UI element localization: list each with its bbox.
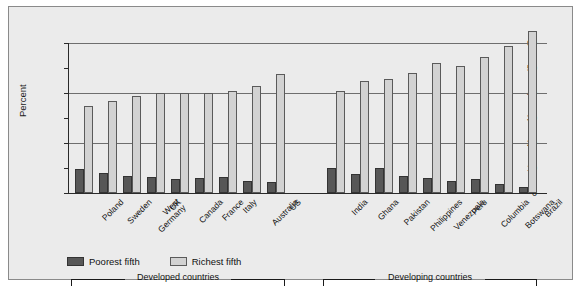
bar-group [495,43,514,193]
legend-label-poorest: Poorest fifth [89,256,140,267]
y-tick [64,68,69,69]
bar-richest-fifth [384,79,393,193]
legend-swatch-richest [170,257,187,266]
group-brace-label: Developing countries [323,272,537,282]
bar-richest-fifth [432,63,441,193]
bar-group [327,43,346,193]
bar-group [75,43,94,193]
bar-group [219,43,238,193]
bar-richest-fifth [132,96,141,194]
x-axis-line [68,193,547,194]
bar-poorest-fifth [447,181,456,194]
category-label: Canada [197,197,225,225]
bar-group [243,43,262,193]
group-brace: Developing countries [323,271,537,286]
legend-swatch-poorest [67,257,84,266]
bar-poorest-fifth [375,168,384,193]
bar-poorest-fifth [195,178,204,193]
group-brace-label: Developed countries [71,272,285,282]
chart-legend: Poorest fifth Richest fifth [67,256,241,267]
bar-poorest-fifth [423,178,432,193]
y-tick [64,118,69,119]
category-label: Pakistan [402,197,432,227]
bar-group [147,43,166,193]
bar-richest-fifth [156,93,165,193]
bar-group [351,43,370,193]
category-label: Ghana [375,197,400,222]
chart-figure: Percent 0102030405060 PolandSwedenWestGe… [8,6,573,280]
bar-poorest-fifth [267,182,276,193]
category-label: India [349,197,369,217]
legend-item-poorest: Poorest fifth [67,256,140,267]
y-tick [64,193,69,194]
bar-group [267,43,286,193]
bar-group [195,43,214,193]
bar-poorest-fifth [495,184,504,193]
bar-poorest-fifth [123,176,132,194]
bar-group [99,43,118,193]
bar-poorest-fifth [219,177,228,193]
bar-richest-fifth [252,86,261,194]
bar-richest-fifth [408,73,417,193]
bar-richest-fifth [276,74,285,193]
bar-richest-fifth [528,31,537,194]
bar-richest-fifth [504,46,513,194]
bar-poorest-fifth [399,176,408,194]
bar-poorest-fifth [243,181,252,194]
bar-group [447,43,466,193]
bar-richest-fifth [84,106,93,194]
bar-poorest-fifth [75,169,84,193]
bar-richest-fifth [204,93,213,193]
bar-poorest-fifth [171,179,180,193]
bar-group [171,43,190,193]
group-brace: Developed countries [71,271,285,286]
category-label: Poland [100,197,126,223]
bar-group [375,43,394,193]
plot-area: 0102030405060 PolandSwedenWestGermanyUKC… [69,43,547,193]
bar-richest-fifth [180,93,189,193]
bar-group [123,43,142,193]
bar-group [423,43,442,193]
bar-richest-fifth [480,57,489,193]
bar-richest-fifth [108,101,117,194]
bar-richest-fifth [228,91,237,194]
bar-richest-fifth [360,81,369,194]
legend-item-richest: Richest fifth [170,256,242,267]
bar-richest-fifth [336,91,345,194]
bar-poorest-fifth [327,168,336,193]
bar-richest-fifth [456,66,465,194]
category-label: Italy [241,197,259,215]
bar-group [471,43,490,193]
y-tick [64,168,69,169]
bar-poorest-fifth [147,177,156,193]
bar-poorest-fifth [351,174,360,193]
y-axis-title: Percent [17,84,28,117]
bar-poorest-fifth [471,179,480,193]
bar-poorest-fifth [99,173,108,193]
bar-group [519,43,538,193]
bar-poorest-fifth [519,187,528,193]
legend-label-richest: Richest fifth [192,256,242,267]
bar-group [399,43,418,193]
